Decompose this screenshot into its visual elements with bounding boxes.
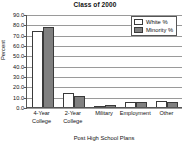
y-tick-label: 80.0 bbox=[0, 22, 24, 28]
legend-swatch bbox=[134, 27, 143, 33]
bar bbox=[105, 105, 116, 107]
y-tick-label: 30.0 bbox=[0, 74, 24, 80]
bar bbox=[136, 102, 147, 107]
bar-group bbox=[89, 15, 120, 107]
x-category-label: Other bbox=[151, 110, 182, 125]
y-tick-mark bbox=[24, 108, 27, 109]
legend-label: White % bbox=[146, 19, 168, 25]
y-tick-label: 0.0 bbox=[0, 105, 24, 111]
bar bbox=[63, 93, 74, 107]
bar-group bbox=[58, 15, 89, 107]
x-category-label: Military bbox=[88, 110, 119, 125]
bar bbox=[94, 106, 105, 107]
legend-item: White % bbox=[134, 19, 173, 25]
y-tick-label: 20.0 bbox=[0, 84, 24, 90]
x-category-label: 2-YearCollege bbox=[57, 110, 88, 125]
y-axis-tick-labels: 0.010.020.030.040.050.060.070.080.090.0 bbox=[0, 15, 24, 108]
legend-item: Minority % bbox=[134, 27, 173, 33]
y-tick-label: 90.0 bbox=[0, 12, 24, 18]
x-category-label: 4-YearCollege bbox=[26, 110, 57, 125]
bar-chart: Class of 2000 Percent 0.010.020.030.040.… bbox=[0, 0, 190, 152]
y-tick-label: 50.0 bbox=[0, 53, 24, 59]
bar bbox=[74, 96, 85, 107]
bar bbox=[156, 101, 167, 107]
x-axis-title: Post High School Plans bbox=[26, 135, 182, 141]
y-tick-label: 70.0 bbox=[0, 33, 24, 39]
bar-group bbox=[27, 15, 58, 107]
bar bbox=[125, 102, 136, 107]
y-tick-label: 10.0 bbox=[0, 95, 24, 101]
chart-title: Class of 2000 bbox=[0, 1, 190, 8]
bar bbox=[32, 31, 43, 107]
legend-swatch bbox=[134, 19, 143, 25]
y-tick-label: 60.0 bbox=[0, 43, 24, 49]
x-axis-category-labels: 4-YearCollege2-YearCollegeMilitaryEmploy… bbox=[26, 110, 182, 125]
bar bbox=[167, 102, 178, 107]
x-category-label: Employment bbox=[120, 110, 151, 125]
chart-legend: White %Minority % bbox=[131, 16, 177, 36]
y-tick-label: 40.0 bbox=[0, 64, 24, 70]
bar bbox=[43, 27, 54, 107]
gridline bbox=[27, 108, 182, 109]
legend-label: Minority % bbox=[146, 27, 173, 33]
